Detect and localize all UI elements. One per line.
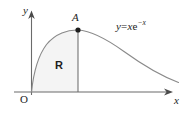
x-axis-label: x	[174, 95, 179, 106]
origin-label: O	[20, 94, 28, 105]
point-a-marker	[75, 27, 80, 32]
y-axis-label: y	[23, 5, 28, 16]
equation-exponent: −x	[137, 18, 145, 27]
graph-canvas	[0, 0, 187, 117]
region-r-label: R	[55, 60, 63, 71]
curve-equation-label: y=xe−x	[116, 19, 146, 32]
equation-equals: =	[121, 20, 128, 32]
point-a-label: A	[72, 12, 79, 23]
figure-container: y x O A R y=xe−x	[0, 0, 187, 117]
